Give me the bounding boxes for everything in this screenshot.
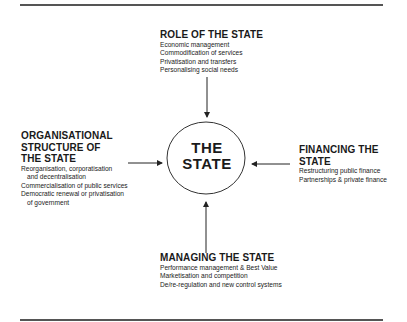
financing-item: Partnerships & private finance — [299, 176, 387, 185]
org-heading-line: ORGANISATIONAL — [21, 130, 128, 142]
organisational-structure-block: ORGANISATIONAL STRUCTURE OF THE STATE Re… — [21, 130, 128, 207]
managing-item: De/re-regulation and new control systems — [160, 281, 282, 290]
org-heading-line: STRUCTURE OF — [21, 142, 128, 154]
role-item: Privatisation and transfers — [160, 58, 263, 67]
role-of-state-block: ROLE OF THE STATE Economic management Co… — [160, 29, 263, 75]
role-item: Economic management — [160, 41, 263, 50]
org-item: and decentralisation — [21, 173, 128, 182]
financing-heading-line: STATE — [299, 156, 387, 168]
org-item: Commercialisation of public services — [21, 182, 128, 191]
managing-item: Performance management & Best Value — [160, 264, 282, 273]
org-item: of government — [21, 199, 128, 208]
financing-block: FINANCING THE STATE Restructuring public… — [299, 144, 387, 184]
center-line-2: STATE — [168, 156, 246, 172]
role-item: Personalising social needs — [160, 66, 263, 75]
financing-item: Restructuring public finance — [299, 167, 387, 176]
org-item: Democratic renewal or privatisation — [21, 190, 128, 199]
managing-item: Marketisation and competition — [160, 272, 282, 281]
managing-heading: MANAGING THE STATE — [160, 252, 282, 264]
financing-heading-line: FINANCING THE — [299, 144, 387, 156]
role-heading: ROLE OF THE STATE — [160, 29, 263, 41]
center-line-1: THE — [168, 140, 246, 156]
org-item: Reorganisation, corporatisation — [21, 165, 128, 174]
managing-block: MANAGING THE STATE Performance managemen… — [160, 252, 282, 289]
center-label: THE STATE — [168, 140, 246, 172]
org-heading-line: THE STATE — [21, 153, 128, 165]
role-item: Commodification of services — [160, 49, 263, 58]
